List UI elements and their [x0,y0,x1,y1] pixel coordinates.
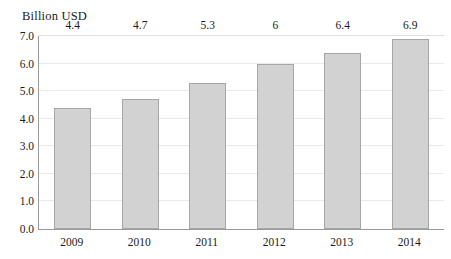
x-axis-tick-labels: 200920102011201220132014 [38,236,443,248]
bar-value-label: 5.3 [201,19,215,31]
y-axis-tick-label: 0.0 [20,223,34,235]
bar-slot: 6.9 [377,36,445,229]
bars-layer: 4.44.75.366.46.9 [39,36,444,229]
bar[interactable]: 4.7 [122,99,159,229]
bar-value-label: 4.7 [133,19,147,31]
y-axis-tick-label: 5.0 [20,85,34,97]
bar[interactable]: 5.3 [189,83,226,229]
bar-value-label: 6.9 [403,19,417,31]
x-axis-tick-label: 2011 [173,236,241,248]
y-axis-tick-label: 7.0 [20,30,34,42]
y-axis-tick-label: 4.0 [20,113,34,125]
y-axis-tick-label: 2.0 [20,168,34,180]
bar-chart: Billion USD 0.01.02.03.04.05.06.07.0 4.4… [0,0,451,259]
bar-slot: 6.4 [309,36,377,229]
bar-slot: 6 [242,36,310,229]
bar-value-label: 4.4 [66,19,80,31]
x-axis-tick-label: 2014 [376,236,444,248]
y-axis-tick-label: 6.0 [20,58,34,70]
x-axis-tick-label: 2013 [308,236,376,248]
bar-value-label: 6.4 [336,19,350,31]
bar-slot: 4.7 [107,36,175,229]
bar-slot: 5.3 [174,36,242,229]
bar[interactable]: 6 [257,64,294,229]
bar[interactable]: 6.9 [392,39,429,229]
x-axis-tick-label: 2009 [38,236,106,248]
bar[interactable]: 4.4 [54,108,91,229]
plot-area: 4.44.75.366.46.9 [38,36,444,230]
bar-value-label: 6 [272,19,278,31]
y-axis-tick-label: 3.0 [20,140,34,152]
bar-slot: 4.4 [39,36,107,229]
y-axis-tick-label: 1.0 [20,195,34,207]
x-axis-tick-label: 2012 [241,236,309,248]
bar[interactable]: 6.4 [324,53,361,229]
x-axis-tick-label: 2010 [106,236,174,248]
y-axis-tick-labels: 0.01.02.03.04.05.06.07.0 [0,0,34,259]
